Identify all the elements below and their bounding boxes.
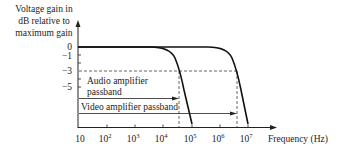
frequency-response-diagram: Voltage gain in dB relative to maximum g… — [0, 0, 343, 144]
x-tick-10e7: 107 — [240, 132, 254, 144]
x-axis — [78, 125, 277, 130]
x-axis-arrow-icon — [270, 125, 277, 130]
y-axis-label-line3: maximum gain — [15, 28, 73, 38]
y-axis-label-line1: Voltage gain in — [15, 4, 73, 14]
x-tick-10e2: 102 — [99, 132, 112, 144]
audio-passband-label-line2: passband — [87, 87, 122, 97]
y-tick-minus1: −1 — [62, 51, 72, 61]
x-tick-labels: 10 102 103 104 105 106 107 — [75, 132, 253, 144]
y-axis-arrow-icon — [76, 20, 81, 27]
audio-passband-arrowhead-icon — [172, 97, 179, 101]
x-tick-10e3: 103 — [127, 132, 140, 144]
y-axis-label-line2: dB relative to — [18, 16, 70, 26]
x-axis-label: Frequency (Hz) — [268, 134, 328, 144]
x-tick-10e5: 105 — [184, 132, 197, 144]
video-passband-arrowhead-icon — [230, 112, 237, 116]
x-tick-10e6: 106 — [212, 132, 226, 144]
audio-passband-label-line1: Audio amplifier — [87, 76, 149, 86]
x-tick-10e4: 104 — [155, 132, 169, 144]
y-tick-minus3: −3 — [62, 66, 72, 76]
x-tick-10: 10 — [75, 134, 85, 144]
video-passband-label: Video amplifier passband — [81, 102, 178, 112]
y-axis — [76, 20, 81, 128]
y-tick-minus5: −5 — [62, 82, 72, 92]
